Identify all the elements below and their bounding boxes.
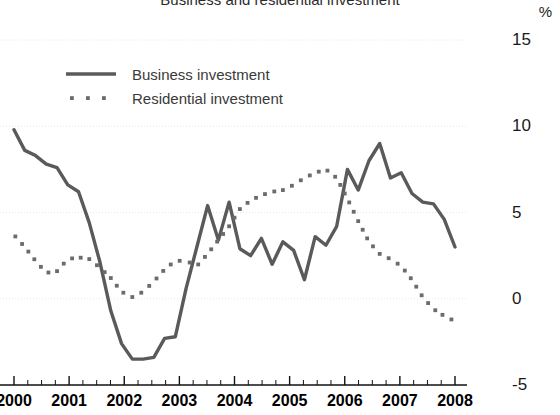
x-axis	[0, 376, 467, 385]
x-axis-tick-label: 2007	[382, 393, 418, 409]
data-point	[238, 207, 242, 211]
data-point	[396, 262, 400, 266]
series-business-investment	[14, 130, 455, 359]
data-point	[299, 178, 303, 182]
data-point	[203, 255, 207, 259]
legend-item: Business investment	[64, 62, 283, 86]
data-point	[221, 232, 225, 236]
data-point	[169, 263, 173, 267]
x-axis-tick-label: 2008	[437, 393, 473, 409]
chart-figure: Business and residential investment % 15…	[0, 0, 560, 415]
data-point	[79, 256, 83, 260]
data-point	[356, 219, 360, 223]
data-point	[139, 291, 143, 295]
data-point	[103, 270, 107, 274]
data-point	[121, 291, 125, 295]
y-axis-tick-label: 15	[512, 31, 552, 48]
data-point	[343, 192, 347, 196]
data-point	[365, 236, 369, 240]
data-point	[347, 201, 351, 205]
data-point	[433, 308, 437, 312]
x-axis-tick-label: 2003	[162, 393, 198, 409]
data-point	[326, 169, 330, 173]
data-point	[378, 252, 382, 256]
data-point	[209, 247, 213, 251]
data-point	[450, 318, 454, 322]
data-point	[178, 259, 182, 263]
data-point	[188, 261, 192, 265]
data-point	[441, 313, 445, 317]
data-point	[13, 235, 17, 239]
data-point	[420, 293, 424, 297]
data-point	[409, 276, 413, 280]
data-point	[147, 284, 151, 288]
data-point	[20, 242, 24, 246]
data-point	[333, 175, 337, 179]
data-point	[403, 269, 407, 273]
data-point	[55, 269, 59, 273]
y-axis-tick-label: 5	[512, 204, 552, 221]
chart-legend: Business investmentResidential investmen…	[64, 62, 283, 110]
data-point	[317, 170, 321, 174]
data-point	[233, 216, 237, 220]
data-point	[115, 284, 119, 288]
data-point	[227, 224, 231, 228]
legend-item-label: Business investment	[132, 66, 270, 83]
legend-item: Residential investment	[64, 86, 283, 110]
data-point	[263, 192, 267, 196]
data-point	[47, 271, 51, 275]
x-axis-tick-label: 2006	[327, 393, 363, 409]
data-point	[426, 301, 430, 305]
data-point	[371, 244, 375, 248]
x-axis-tick-label: 2000	[0, 393, 32, 409]
data-point	[70, 256, 74, 260]
y-axis-tick-label: 10	[512, 117, 552, 134]
legend-dotted-line-icon	[64, 91, 118, 105]
y-axis-tick-label: -5	[512, 376, 552, 393]
data-point	[62, 262, 66, 266]
x-axis-tick-label: 2002	[106, 393, 142, 409]
data-point	[281, 188, 285, 192]
data-point	[272, 190, 276, 194]
data-point	[26, 250, 30, 254]
data-point	[361, 228, 365, 232]
data-point	[161, 269, 165, 273]
data-series	[13, 130, 455, 359]
data-point	[87, 257, 91, 261]
data-point	[414, 285, 418, 289]
data-point	[254, 196, 258, 200]
data-point	[32, 257, 36, 261]
legend-solid-line-icon	[64, 67, 118, 81]
x-axis-tick-label: 2004	[217, 393, 253, 409]
x-axis-tick-label: 2005	[272, 393, 308, 409]
data-point	[155, 277, 159, 281]
data-point	[308, 174, 312, 178]
data-point	[39, 265, 43, 269]
data-point	[387, 256, 391, 260]
data-point	[246, 201, 250, 205]
data-point	[290, 184, 294, 188]
x-axis-tick-label: 2001	[51, 393, 87, 409]
data-point	[215, 240, 219, 244]
data-point	[338, 183, 342, 187]
data-point	[196, 263, 200, 267]
data-point	[352, 210, 356, 214]
y-axis-tick-label: 0	[512, 290, 552, 307]
data-point	[95, 263, 99, 267]
data-point	[130, 295, 134, 299]
legend-item-label: Residential investment	[132, 90, 283, 107]
data-point	[109, 276, 113, 280]
